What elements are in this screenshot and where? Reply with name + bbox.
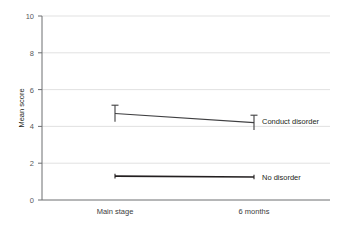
y-tick-label-0: 0 <box>30 196 34 205</box>
series-label-no-disorder: No disorder <box>262 173 301 182</box>
y-axis-title: Mean score <box>17 88 26 127</box>
series-line-no-disorder <box>115 176 254 177</box>
y-tick-label-10: 10 <box>26 12 34 21</box>
chart-canvas: 10 8 6 4 2 0 Mean score Main stage 6 mon… <box>0 0 346 233</box>
y-tick-label-4: 4 <box>30 122 34 131</box>
y-tick-label-6: 6 <box>30 86 34 95</box>
y-tick-label-8: 8 <box>30 49 34 58</box>
x-tick-label-6-months: 6 months <box>239 207 270 216</box>
series-label-conduct-disorder: Conduct disorder <box>262 117 320 126</box>
line-chart-figure: 10 8 6 4 2 0 Mean score Main stage 6 mon… <box>0 0 346 233</box>
x-tick-label-main-stage: Main stage <box>97 207 134 216</box>
y-tick-label-2: 2 <box>30 159 34 168</box>
